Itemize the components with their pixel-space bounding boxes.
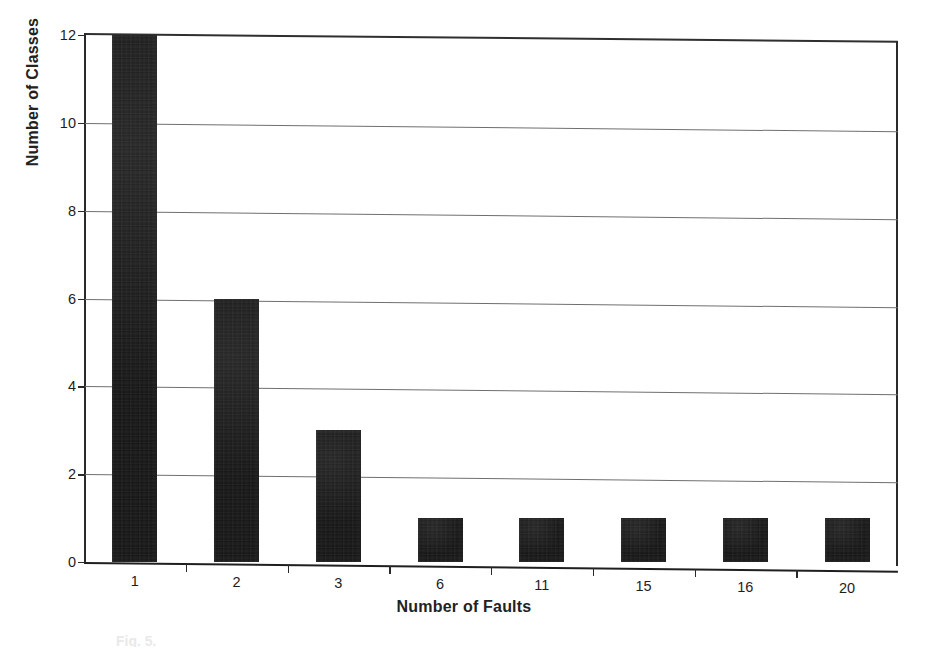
plot-area bbox=[84, 35, 898, 562]
gridline-y-4 bbox=[84, 386, 898, 395]
y-axis-tick-labels: 024681012 bbox=[48, 0, 76, 649]
gridline-y-6 bbox=[84, 299, 898, 308]
x-tick-mark-6 bbox=[491, 567, 492, 575]
x-tick-label-15: 15 bbox=[636, 578, 652, 594]
y-tick-label-8: 8 bbox=[50, 203, 76, 219]
x-tick-label-6: 6 bbox=[436, 576, 444, 592]
y-tick-mark-8 bbox=[78, 211, 85, 212]
y-tick-mark-2 bbox=[78, 474, 85, 475]
y-tick-mark-10 bbox=[78, 123, 85, 124]
gridline-y-2 bbox=[84, 474, 898, 483]
bar bbox=[418, 518, 463, 562]
x-tick-label-1: 1 bbox=[131, 573, 139, 589]
x-tick-label-16: 16 bbox=[737, 579, 753, 595]
bar bbox=[316, 430, 361, 562]
y-tick-mark-6 bbox=[78, 299, 85, 300]
x-tick-mark-3 bbox=[389, 566, 390, 574]
x-tick-label-20: 20 bbox=[839, 580, 855, 596]
x-tick-mark-16 bbox=[796, 570, 797, 578]
x-tick-mark-11 bbox=[593, 568, 594, 576]
x-tick-mark-1 bbox=[186, 564, 187, 572]
x-tick-mark-2 bbox=[288, 565, 289, 573]
x-axis-title: Number of Faults bbox=[0, 598, 928, 616]
y-tick-mark-12 bbox=[78, 35, 85, 36]
x-tick-label-11: 11 bbox=[534, 577, 549, 593]
bar bbox=[621, 518, 666, 562]
y-tick-label-2: 2 bbox=[50, 466, 76, 482]
x-tick-label-2: 2 bbox=[233, 574, 241, 590]
bar bbox=[214, 299, 259, 563]
y-tick-mark-4 bbox=[78, 386, 85, 387]
gridline-y-10 bbox=[84, 123, 898, 132]
x-tick-mark-15 bbox=[695, 569, 696, 577]
bar bbox=[519, 518, 564, 562]
bar bbox=[723, 518, 768, 562]
bar bbox=[825, 518, 870, 562]
y-axis-title: Number of Classes bbox=[24, 0, 46, 202]
y-tick-label-10: 10 bbox=[50, 115, 76, 131]
y-tick-mark-0 bbox=[78, 562, 85, 563]
bar bbox=[112, 35, 157, 562]
plot-border-top bbox=[84, 33, 898, 42]
x-tick-label-3: 3 bbox=[334, 575, 342, 591]
y-tick-label-12: 12 bbox=[50, 27, 76, 43]
gridline-y-8 bbox=[84, 211, 898, 220]
y-tick-label-4: 4 bbox=[50, 378, 76, 394]
plot-border-right bbox=[896, 41, 898, 566]
figure-caption: Fig. 5. bbox=[116, 633, 676, 647]
figure-bar-chart: Number of Classes 024681012 123611151620… bbox=[0, 0, 928, 649]
y-tick-label-6: 6 bbox=[50, 291, 76, 307]
y-tick-label-0: 0 bbox=[50, 554, 76, 570]
